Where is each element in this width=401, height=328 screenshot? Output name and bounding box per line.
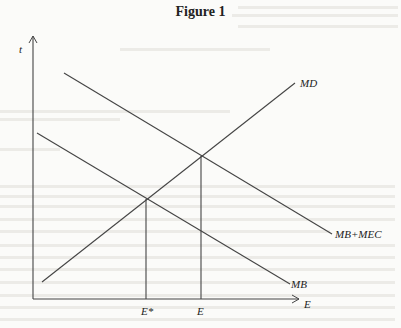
x-axis-label: E [303, 298, 311, 310]
e-star-label: E* [140, 305, 154, 317]
mb-mec-label: MB+MEC [334, 228, 382, 240]
y-axis-label: t [19, 43, 23, 55]
mb-mec-curve [64, 73, 332, 234]
md-curve [42, 83, 295, 282]
economics-diagram: t E MD MB+MEC MB E* E [0, 0, 401, 328]
mb-label: MB [290, 278, 307, 290]
mb-curve [37, 133, 290, 284]
md-label: MD [299, 77, 317, 89]
e-label: E [196, 305, 204, 317]
